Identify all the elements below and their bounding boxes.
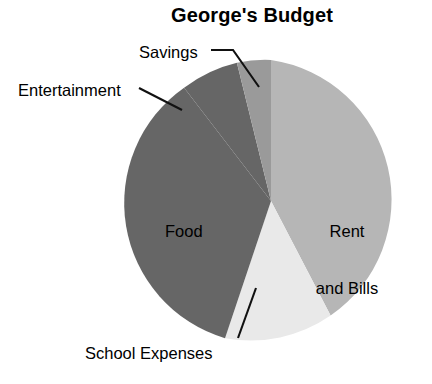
pie-label-entertainment: Entertainment xyxy=(18,81,121,100)
pie-label-rent-and-bills-line1: Rent xyxy=(310,222,384,241)
pie-label-school-expenses: School Expenses xyxy=(85,344,213,363)
pie-label-rent-and-bills: Rent and Bills xyxy=(310,184,384,336)
pie-label-savings: Savings xyxy=(139,43,198,62)
pie-chart-figure: George's Budget Entertainment Savings Sc… xyxy=(0,0,432,384)
pie-label-food: Food xyxy=(165,222,203,241)
pie-label-rent-and-bills-line2: and Bills xyxy=(310,279,384,298)
